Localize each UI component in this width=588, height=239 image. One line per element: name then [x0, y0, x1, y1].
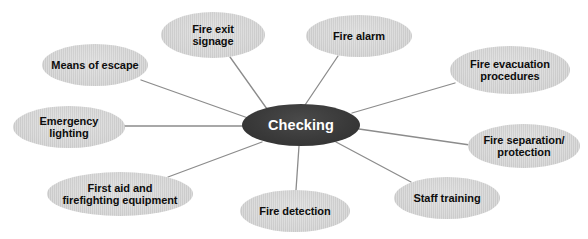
node-fire-evacuation-procedures[interactable]: Fire evacuation procedures [450, 46, 570, 94]
connector-fire-detection [296, 146, 299, 190]
connector-means-of-escape [141, 80, 248, 118]
node-fire-exit-signage-label: Fire exit signage [186, 23, 240, 48]
node-fire-exit-signage[interactable]: Fire exit signage [161, 12, 265, 58]
center-node-checking[interactable]: Checking [242, 104, 360, 146]
node-staff-training[interactable]: Staff training [394, 177, 500, 219]
connector-fire-alarm [305, 56, 338, 105]
center-node-checking-label: Checking [262, 117, 340, 133]
node-fire-separation-protection[interactable]: Fire separation/ protection [468, 124, 580, 168]
node-first-aid-and-firefighting-equipment-label: First aid and firefighting equipment [56, 182, 183, 207]
node-fire-evacuation-procedures-label: Fire evacuation procedures [464, 58, 556, 83]
connector-first-aid-and-firefighting-equipment [168, 142, 262, 177]
node-first-aid-and-firefighting-equipment[interactable]: First aid and firefighting equipment [47, 172, 193, 216]
node-fire-alarm-label: Fire alarm [327, 30, 391, 42]
node-fire-detection[interactable]: Fire detection [240, 190, 350, 232]
connector-staff-training [336, 142, 411, 182]
node-means-of-escape[interactable]: Means of escape [42, 44, 148, 86]
node-fire-separation-protection-label: Fire separation/ protection [477, 134, 570, 159]
connector-fire-exit-signage [230, 57, 267, 109]
connector-fire-evacuation-procedures [352, 83, 455, 113]
node-fire-detection-label: Fire detection [253, 205, 336, 217]
connector-fire-separation-protection [359, 129, 470, 145]
node-staff-training-label: Staff training [407, 192, 486, 204]
mind-map-diagram: CheckingMeans of escapeFire exit signage… [0, 0, 588, 239]
node-emergency-lighting[interactable]: Emergency lighting [13, 106, 125, 148]
node-fire-alarm[interactable]: Fire alarm [306, 15, 412, 57]
node-means-of-escape-label: Means of escape [45, 59, 144, 71]
node-emergency-lighting-label: Emergency lighting [34, 115, 105, 140]
